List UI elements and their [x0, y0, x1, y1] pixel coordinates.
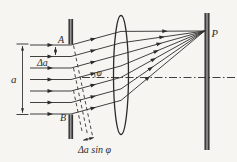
slit-barrier-bottom [69, 115, 74, 140]
arrowhead-icon [90, 49, 96, 53]
arrowhead-icon [83, 138, 88, 141]
light-ray [121, 31, 205, 66]
arrowhead-icon [162, 29, 168, 33]
diffraction-figure: A B a Δa φ Δa sin φ P [0, 0, 237, 162]
arrowhead-icon [48, 55, 54, 59]
arrowhead-icon [48, 78, 54, 82]
wavefront-dashed-lines [74, 46, 93, 137]
angle-arc [95, 74, 96, 78]
label-path-difference: Δa sin φ [77, 144, 112, 155]
arrowhead-icon [90, 95, 96, 99]
wavefront-line [74, 91, 83, 134]
arrowhead-icon [89, 137, 94, 140]
arrowhead-icon [150, 58, 156, 62]
screen [205, 13, 210, 150]
arrowhead-icon [54, 51, 57, 56]
arrowhead-icon [48, 101, 54, 105]
label-focal-point: P [211, 28, 219, 39]
arrowhead-icon [90, 61, 96, 65]
single-slit-diffraction-diagram: A B a Δa φ Δa sin φ P [0, 0, 237, 162]
arrowhead-icon [90, 107, 96, 111]
arrowhead-icon [153, 50, 159, 54]
label-slit-width: a [11, 73, 17, 85]
arrowhead-icon [156, 43, 162, 47]
slit-barrier-top [69, 19, 74, 45]
light-ray [121, 31, 205, 54]
label-diffraction-angle: φ [97, 68, 102, 78]
label-slit-bottom-edge: B [60, 112, 66, 123]
label-slit-top-edge: A [57, 34, 65, 45]
arrowhead-icon [48, 66, 54, 70]
light-rays [21, 29, 205, 140]
label-zone-width: Δa [36, 57, 48, 68]
arrowhead-icon [48, 89, 54, 93]
arrowhead-icon [90, 84, 96, 88]
arrowhead-icon [48, 43, 54, 47]
arrowhead-icon [21, 108, 24, 113]
arrowhead-icon [48, 112, 54, 116]
arrowhead-icon [159, 36, 165, 40]
arrowhead-icon [21, 46, 24, 51]
light-ray [121, 31, 205, 77]
lens [114, 16, 129, 135]
arrowhead-icon [90, 38, 96, 42]
arrowhead-icon [148, 67, 154, 72]
light-ray [121, 31, 205, 89]
wavefront-line [74, 46, 93, 137]
